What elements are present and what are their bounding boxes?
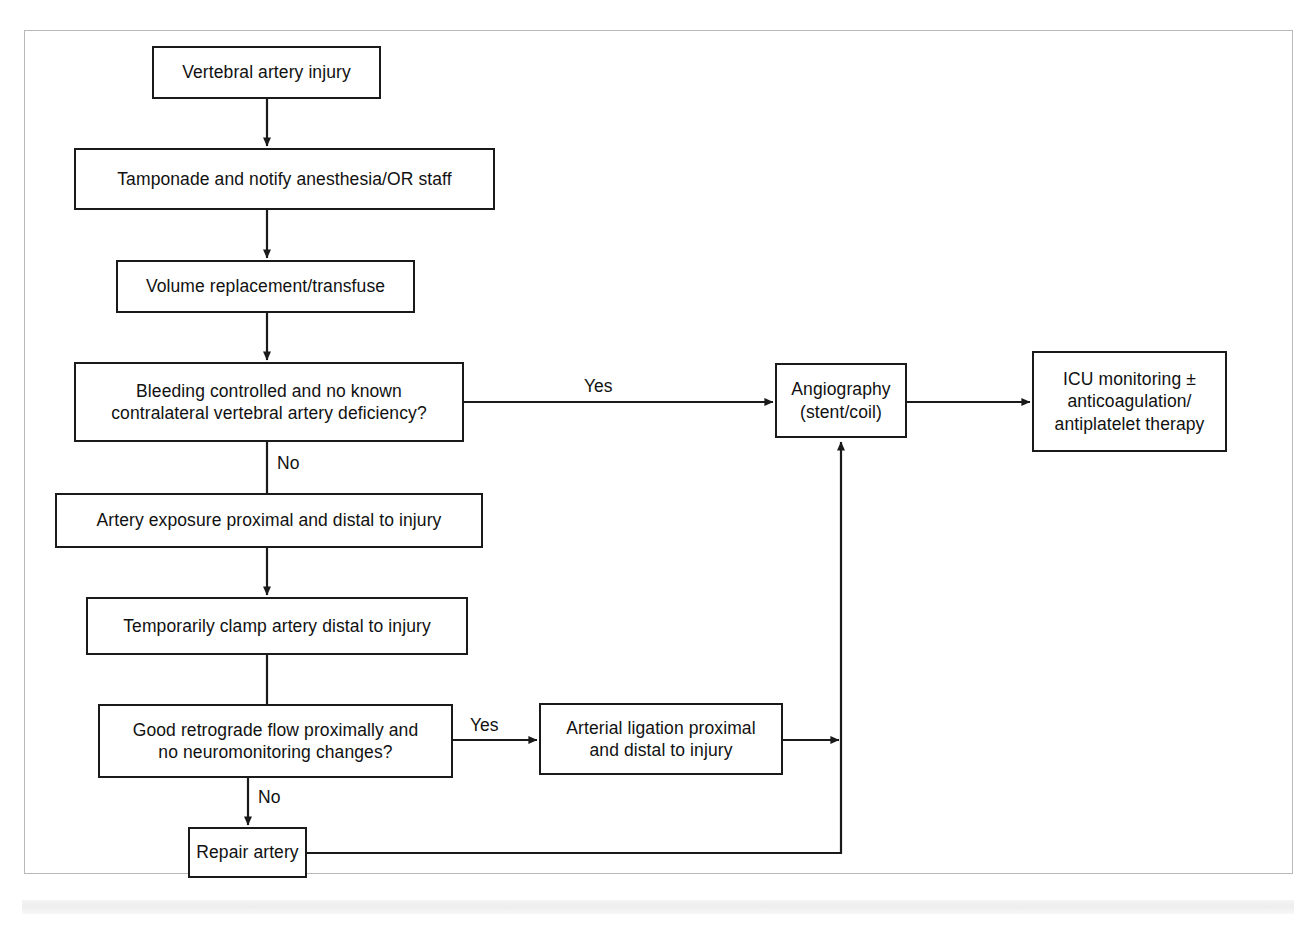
flowchart-page: Vertebral artery injury Tamponade and no… [0,0,1314,935]
node-arterial-ligation: Arterial ligation proximal and distal to… [539,703,783,775]
node-artery-exposure: Artery exposure proximal and distal to i… [55,493,483,548]
node-tamponade: Tamponade and notify anesthesia/OR staff [74,148,495,210]
node-label-line3: antiplatelet therapy [1055,414,1205,434]
edge-label-retrograde-no: No [258,789,280,807]
node-label-line2: and distal to injury [589,740,732,760]
node-icu-monitoring: ICU monitoring ± anticoagulation/ antipl… [1032,351,1227,452]
node-temporarily-clamp: Temporarily clamp artery distal to injur… [86,597,468,655]
node-label: Vertebral artery injury [160,61,373,83]
node-angiography: Angiography (stent/coil) [775,363,907,438]
node-label: Tamponade and notify anesthesia/OR staff [82,168,487,190]
node-label: Good retrograde flow proximally and no n… [106,719,445,764]
node-label-line1: ICU monitoring ± [1063,369,1196,389]
node-label: Bleeding controlled and no known contral… [82,380,456,425]
node-label-line1: Angiography [791,379,890,399]
node-label: Artery exposure proximal and distal to i… [63,509,475,531]
connector-layer [0,0,1314,935]
node-label-line2: contralateral vertebral artery deficienc… [111,403,426,423]
edge-label-retrograde-yes: Yes [470,717,499,735]
node-label-line2: no neuromonitoring changes? [158,742,392,762]
node-label: Temporarily clamp artery distal to injur… [94,615,460,637]
node-vertebral-artery-injury: Vertebral artery injury [152,46,381,99]
node-volume-replacement: Volume replacement/transfuse [116,260,415,313]
node-label: ICU monitoring ± anticoagulation/ antipl… [1040,368,1219,435]
node-label-line2: (stent/coil) [800,402,882,422]
edge-label-bleeding-no: No [277,455,299,473]
node-label: Volume replacement/transfuse [124,275,407,297]
node-label-line1: Good retrograde flow proximally and [133,720,419,740]
node-good-retrograde-flow: Good retrograde flow proximally and no n… [98,704,453,778]
node-label-line1: Arterial ligation proximal [566,718,755,738]
node-label-line2: anticoagulation/ [1067,391,1191,411]
node-label: Arterial ligation proximal and distal to… [547,717,775,762]
node-repair-artery: Repair artery [188,827,307,878]
node-label: Repair artery [196,841,299,863]
node-label: Angiography (stent/coil) [783,378,899,423]
node-bleeding-controlled: Bleeding controlled and no known contral… [74,362,464,442]
edge-label-bleeding-yes: Yes [584,378,613,396]
node-label-line1: Bleeding controlled and no known [136,381,402,401]
